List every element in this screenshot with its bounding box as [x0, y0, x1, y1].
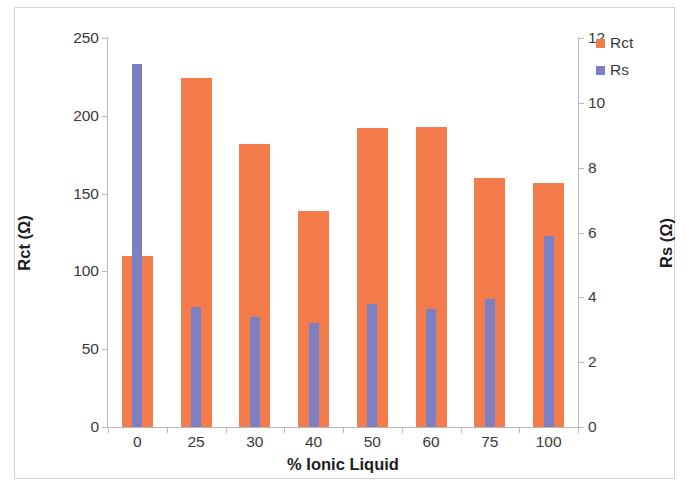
bar-rs [309, 323, 319, 427]
left-tick [102, 194, 107, 195]
bar-group [239, 38, 270, 427]
x-tick-label: 40 [284, 434, 344, 450]
right-tick [579, 427, 584, 428]
bar-rs [367, 304, 377, 427]
bar-group [533, 38, 564, 427]
x-tick-label: 25 [166, 434, 226, 450]
right-tick [579, 362, 584, 363]
right-tick-label: 6 [588, 225, 632, 241]
left-tick-label: 100 [55, 263, 99, 279]
left-tick-label: 0 [55, 419, 99, 435]
right-tick-label: 2 [588, 354, 632, 370]
right-axis-title: Rs (Ω) [658, 218, 677, 268]
x-tick-label: 75 [460, 434, 520, 450]
legend-swatch-icon [596, 66, 605, 75]
x-tick [284, 428, 285, 433]
x-tick [402, 428, 403, 433]
bar-rs [191, 307, 201, 427]
x-tick-label: 60 [401, 434, 461, 450]
x-tick [108, 428, 109, 433]
right-tick [579, 103, 584, 104]
legend-item: Rct [596, 34, 633, 52]
legend-label: Rs [610, 61, 629, 79]
left-tick [102, 271, 107, 272]
x-tick-label: 0 [107, 434, 167, 450]
left-axis-title: Rct (Ω) [15, 215, 34, 270]
bar-rs [544, 236, 554, 427]
x-tick [226, 428, 227, 433]
plot-background [108, 38, 578, 427]
left-tick-label: 250 [55, 30, 99, 46]
chart-figure: 050100150200250 024681012 02530405060751… [0, 0, 686, 485]
x-tick-label: 30 [225, 434, 285, 450]
x-tick [519, 428, 520, 433]
bar-group [181, 38, 212, 427]
right-tick [579, 297, 584, 298]
left-tick [102, 427, 107, 428]
x-tick [578, 428, 579, 433]
right-tick-label: 8 [588, 160, 632, 176]
x-tick-label: 50 [342, 434, 402, 450]
x-tick-label: 100 [519, 434, 579, 450]
x-axis-title: % Ionic Liquid [0, 455, 686, 474]
bar-group [122, 38, 153, 427]
bar-rs [426, 309, 436, 427]
x-tick [167, 428, 168, 433]
right-tick [579, 38, 584, 39]
bar-group [357, 38, 388, 427]
chart-legend: RctRs [596, 34, 633, 88]
right-tick-label: 4 [588, 289, 632, 305]
left-tick-label: 150 [55, 186, 99, 202]
plot-area [108, 38, 578, 427]
left-tick-label: 200 [55, 108, 99, 124]
right-tick-label: 10 [588, 95, 632, 111]
left-tick [102, 38, 107, 39]
right-tick [579, 233, 584, 234]
bar-group [474, 38, 505, 427]
left-tick [102, 116, 107, 117]
bar-rs [250, 317, 260, 427]
right-tick [579, 168, 584, 169]
x-tick [461, 428, 462, 433]
legend-item: Rs [596, 61, 633, 79]
right-tick-label: 0 [588, 419, 632, 435]
bar-group [298, 38, 329, 427]
x-tick [343, 428, 344, 433]
left-tick-label: 50 [55, 341, 99, 357]
bar-rs [132, 64, 142, 427]
legend-label: Rct [610, 34, 633, 52]
legend-swatch-icon [596, 39, 605, 48]
bar-group [416, 38, 447, 427]
left-tick [102, 349, 107, 350]
bar-rs [485, 299, 495, 427]
